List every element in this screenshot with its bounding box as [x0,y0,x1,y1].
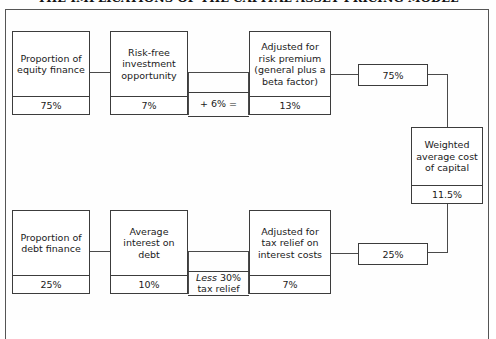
node-label: Adjusted for tax relief on interest cost… [250,211,330,275]
node-value: 7% [111,96,187,114]
node-adjusted-for-tax-relief: Adjusted for tax relief on interest cost… [249,210,331,294]
node-label: Risk-free investment opportunity [111,32,187,96]
node-value: 7% [250,275,330,293]
node-label: Adjusted for risk premium (general plus … [250,32,330,96]
node-value: 11.5% [412,185,482,203]
connector-strip-top-edge [188,72,249,73]
node-equity-weighting: 75% [358,64,428,86]
connector-equity-weight-right [428,74,447,75]
page-title: THE IMPLICATIONS OF THE CAPITAL ASSET PR… [0,0,496,5]
node-value: 13% [250,96,330,114]
node-value: 25% [13,275,89,293]
node-label: Proportion of equity finance [13,32,89,96]
connector-wacc-down-to-debt-weight [447,204,448,252]
connector-strip-bottom-edge [188,251,249,252]
connector-taxrelief-to-debt-weight [331,253,358,254]
node-risk-free-investment-opportunity: Risk-free investment opportunity 7% [110,31,188,115]
node-label: Average interest on debt [111,211,187,275]
operator-equity-risk-premium: + 6% = [189,93,248,114]
node-proportion-of-equity-finance: Proportion of equity finance 75% [12,31,90,115]
connector-debt-to-average-interest [90,251,110,252]
operator-prefix: Less [196,272,217,283]
node-label: Weighted average cost of capital [412,128,482,185]
connector-riskpremium-to-equity-weight [331,74,358,75]
connector-equity-weight-down-to-wacc [447,74,448,128]
connector-wacc-left-to-debt-weight [428,252,448,253]
node-value: 10% [111,275,187,293]
node-adjusted-for-risk-premium: Adjusted for risk premium (general plus … [249,31,331,115]
node-average-interest-on-debt: Average interest on debt 10% [110,210,188,294]
node-proportion-of-debt-finance: Proportion of debt finance 25% [12,210,90,294]
node-label: Proportion of debt finance [13,211,89,275]
node-debt-weighting: 25% [358,243,428,265]
operator-debt-tax-relief: Less 30% tax relief [189,272,248,293]
connector-equity-to-riskfree [90,72,110,73]
node-weighted-average-cost-of-capital: Weighted average cost of capital 11.5% [411,127,483,204]
node-value: 75% [13,96,89,114]
